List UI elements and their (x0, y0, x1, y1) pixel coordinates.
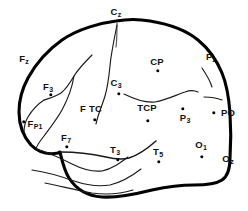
electrode-label-subscript: P1 (34, 123, 43, 130)
electrode-label-o1: O1 (195, 140, 207, 150)
brain-outline-svg (0, 0, 248, 211)
intraparietal-sulcus (124, 91, 198, 103)
electrode-label-subscript: z (25, 58, 29, 65)
electrode-label-subscript: z (213, 56, 217, 63)
electrode-label-subscript: 1 (203, 144, 207, 151)
cortex-outline-path (19, 20, 231, 198)
electrode-label-t5: T5 (153, 147, 163, 157)
sylvian-fissure (61, 141, 156, 159)
electrode-label-ftc: F TC (80, 104, 102, 114)
electrode-label-cp: CP (150, 57, 164, 67)
electrode-label-subscript: 5 (159, 151, 163, 158)
electrode-label-subscript: z (230, 158, 234, 165)
electrode-label-f7: F7 (61, 133, 71, 143)
electrode-label-subscript: 3 (118, 82, 122, 89)
electrode-label-cz: Cz (111, 7, 122, 17)
electrode-label-fz: Fz (19, 54, 29, 64)
electrode-label-subscript: z (118, 11, 122, 18)
electrode-label-t3: T3 (110, 145, 120, 155)
post-central-sulcus (202, 68, 212, 87)
electrode-label-c3: C3 (110, 78, 121, 88)
electrode-label-subscript: 3 (186, 117, 190, 124)
electrode-label-subscript: 3 (116, 149, 120, 156)
parieto-occipital-sulcus (204, 97, 222, 100)
electrode-label-fp1: FP1 (28, 119, 43, 129)
electrode-label-po: PO (221, 108, 235, 118)
electrode-label-f3: F3 (43, 82, 53, 92)
electrode-label-p3: P3 (180, 113, 191, 123)
electrode-label-tcp: TCP (137, 103, 157, 113)
electrode-label-oz: Oz (222, 154, 233, 164)
electrode-label-subscript: 3 (49, 86, 53, 93)
electrode-label-pz: Pz (206, 52, 216, 62)
electrode-label-subscript: 7 (67, 137, 71, 144)
brain-electrode-diagram: CzFzF3FP1F7F TCC3T3T5TCPCPP3PzPOO1Oz (0, 0, 248, 211)
